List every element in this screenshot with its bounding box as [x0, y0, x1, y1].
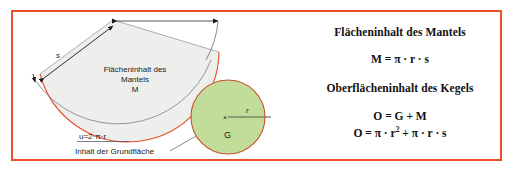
formula-column: Flächeninhalt des Mantels M = π · r · s … — [281, 26, 517, 171]
surface-equation-expanded: O = π · r2 + π · r · s — [281, 123, 517, 140]
surface-equation-prefix: O = π · r — [353, 127, 395, 139]
figure-root: s u=2·π·r Inhalt der Grundfläche × r G — [0, 0, 517, 175]
arc-length-label: u=2·π·r — [79, 132, 106, 141]
base-circle-label: G — [224, 130, 231, 140]
mantle-label-line1: Flächeninhalt des — [104, 65, 167, 74]
mantle-formula-equation: M = π · r · s — [281, 53, 517, 65]
surface-formula-title: Oberflächeninhalt des Kegels — [281, 82, 517, 94]
mantle-label-line2: Mantels — [121, 75, 149, 84]
surface-equation-suffix: + π · r · s — [399, 127, 446, 139]
base-area-leader — [170, 136, 196, 151]
surface-formula-block: O = G + M O = π · r2 + π · r · s — [281, 109, 517, 140]
slant-label: s — [56, 51, 60, 60]
arc-start-arrow — [33, 74, 35, 82]
cone-net-diagram: s u=2·π·r Inhalt der Grundfläche × r G — [13, 12, 271, 175]
radius-label: r — [246, 106, 249, 115]
figure-panel: s u=2·π·r Inhalt der Grundfläche × r G — [11, 10, 502, 161]
mantle-formula-title: Flächeninhalt des Mantels — [281, 26, 517, 38]
diagram-svg: s u=2·π·r Inhalt der Grundfläche × r G — [13, 12, 271, 163]
center-marker-icon: × — [223, 114, 227, 121]
base-area-caption: Inhalt der Grundfläche — [75, 147, 155, 156]
mantle-label-line3: M — [132, 85, 139, 94]
surface-equation-sum: O = G + M — [281, 109, 517, 123]
